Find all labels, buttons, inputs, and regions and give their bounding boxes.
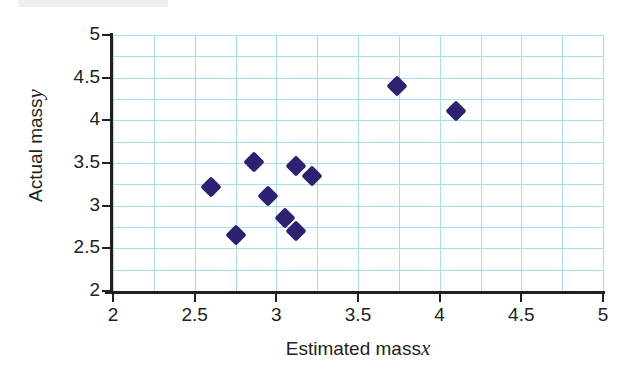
x-axis-line bbox=[105, 291, 605, 294]
x-axis-tick-label: 4 bbox=[410, 305, 470, 325]
x-axis-tick-label: 2.5 bbox=[165, 305, 225, 325]
gridline-horizontal bbox=[113, 270, 603, 271]
y-axis-tick bbox=[102, 205, 113, 207]
gridline-horizontal bbox=[113, 227, 603, 228]
y-axis-tick-label: 3 bbox=[52, 195, 100, 215]
x-axis-label-text: Estimated mass bbox=[286, 338, 421, 359]
x-axis-tick-label: 2 bbox=[83, 305, 143, 325]
x-axis-tick bbox=[112, 291, 114, 302]
gridline-horizontal bbox=[113, 163, 603, 164]
y-axis-tick bbox=[102, 247, 113, 249]
x-axis-tick-label-text: 3 bbox=[271, 304, 282, 325]
x-axis-tick-label-text: 2 bbox=[108, 304, 119, 325]
y-axis-tick-label: 4.5 bbox=[52, 67, 100, 87]
y-axis-label-variable: y bbox=[23, 89, 47, 98]
gridline-horizontal bbox=[113, 120, 603, 121]
y-axis-tick bbox=[102, 34, 113, 36]
y-axis-tick bbox=[102, 162, 113, 164]
y-axis-tick-label: 3.5 bbox=[52, 152, 100, 172]
y-axis-label-text: Actual mass bbox=[25, 98, 46, 201]
y-axis-tick-label: 2.5 bbox=[52, 237, 100, 257]
y-axis-tick-label-text: 4 bbox=[89, 109, 100, 128]
y-axis-tick-label: 5 bbox=[52, 24, 100, 44]
x-axis-tick-label: 3.5 bbox=[328, 305, 388, 325]
gridline-vertical bbox=[603, 35, 604, 291]
y-axis-tick-label: 2 bbox=[52, 280, 100, 300]
gridline-horizontal bbox=[113, 99, 603, 100]
y-axis-tick-label-text: 3 bbox=[89, 195, 100, 214]
gridline-horizontal bbox=[113, 142, 603, 143]
x-axis-tick-label: 5 bbox=[573, 305, 632, 325]
plot-area bbox=[113, 35, 603, 291]
y-axis-tick-label-text: 5 bbox=[89, 24, 100, 43]
y-axis-tick-label-text: 4.5 bbox=[74, 67, 100, 86]
gridline-horizontal bbox=[113, 78, 603, 79]
x-axis-tick bbox=[520, 291, 522, 302]
x-axis-tick-label-text: 4 bbox=[434, 304, 445, 325]
gridline-horizontal bbox=[113, 56, 603, 57]
x-axis-tick bbox=[194, 291, 196, 302]
x-axis-tick bbox=[357, 291, 359, 302]
gridline-horizontal bbox=[113, 35, 603, 36]
y-axis-tick bbox=[102, 77, 113, 79]
x-axis-tick-label-text: 4.5 bbox=[508, 304, 534, 325]
x-axis-label-variable: x bbox=[421, 336, 430, 360]
x-axis-tick-label: 3 bbox=[246, 305, 306, 325]
y-axis-tick-label-text: 2 bbox=[89, 280, 100, 299]
y-axis-label: Actual massy bbox=[23, 31, 48, 261]
x-axis-label: Estimated massx bbox=[113, 336, 603, 361]
gridline-horizontal bbox=[113, 184, 603, 185]
scatter-plot-figure: 22.533.544.55 22.533.544.55 Actual massy… bbox=[0, 0, 632, 380]
x-axis-tick bbox=[275, 291, 277, 302]
x-axis-tick bbox=[439, 291, 441, 302]
y-axis-tick-label-text: 3.5 bbox=[74, 152, 100, 171]
gridline-horizontal bbox=[113, 206, 603, 207]
x-axis-tick-label-text: 3.5 bbox=[345, 304, 371, 325]
y-axis-tick bbox=[102, 119, 113, 121]
gridline-horizontal bbox=[113, 248, 603, 249]
x-axis-tick-label: 4.5 bbox=[491, 305, 551, 325]
x-axis-tick bbox=[602, 291, 604, 302]
y-axis-tick-label-text: 2.5 bbox=[74, 237, 100, 256]
page-artifact bbox=[18, 0, 168, 7]
y-axis-tick-label: 4 bbox=[52, 109, 100, 129]
x-axis-tick-label-text: 2.5 bbox=[181, 304, 207, 325]
x-axis-tick-label-text: 5 bbox=[598, 304, 609, 325]
